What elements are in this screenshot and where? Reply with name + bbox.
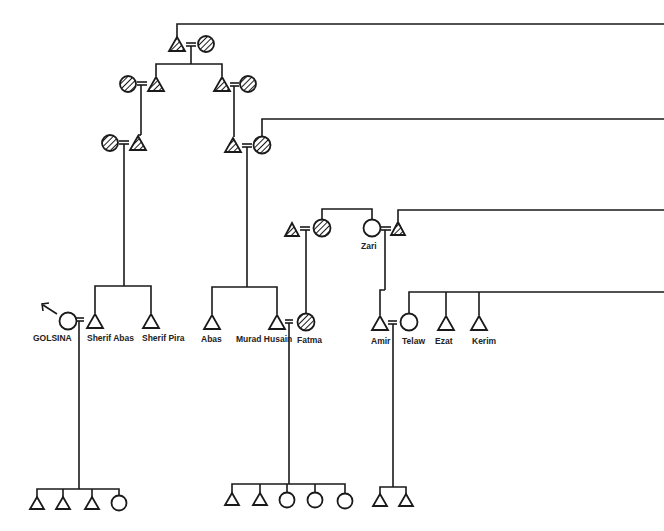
male-icon bbox=[56, 497, 70, 509]
female-deceased-icon bbox=[102, 135, 118, 151]
female-deceased-icon bbox=[198, 36, 214, 52]
connection-lines bbox=[37, 24, 664, 497]
female-icon bbox=[308, 493, 323, 508]
labels: GOLSINA Sherif Abas Sherif Pira Abas Mur… bbox=[33, 241, 497, 346]
male-icon bbox=[30, 497, 44, 509]
label-telaw: Telaw bbox=[402, 336, 425, 346]
label-sherif-abas: Sherif Abas bbox=[87, 333, 134, 343]
male-icon-ezat bbox=[438, 316, 454, 330]
male-deceased-icon bbox=[285, 223, 299, 236]
male-deceased-icon bbox=[130, 136, 146, 150]
gen5 bbox=[30, 493, 413, 511]
female-deceased-icon bbox=[254, 137, 271, 154]
female-icon-golsina bbox=[60, 313, 77, 330]
label-sherif-pira: Sherif Pira bbox=[142, 333, 185, 343]
male-icon bbox=[399, 494, 413, 506]
male-deceased-icon bbox=[391, 222, 405, 235]
female-icon-telaw bbox=[401, 314, 418, 331]
label-kerim: Kerim bbox=[472, 336, 497, 346]
label-fatma: Fatma bbox=[297, 335, 322, 345]
female-deceased-icon-fatma bbox=[298, 314, 315, 331]
label-golsina: GOLSINA bbox=[33, 333, 72, 343]
male-icon-sherif-pira bbox=[143, 314, 159, 328]
female-icon bbox=[338, 494, 353, 509]
kinship-diagram: GOLSINA Sherif Abas Sherif Pira Abas Mur… bbox=[0, 0, 664, 531]
label-amir: Amir bbox=[371, 336, 391, 346]
female-icon-zari bbox=[364, 220, 381, 237]
male-icon bbox=[85, 497, 99, 509]
female-deceased-icon bbox=[120, 76, 136, 92]
male-deceased-icon bbox=[148, 77, 164, 91]
female-deceased-icon bbox=[314, 220, 331, 237]
female-icon bbox=[280, 493, 295, 508]
gen4 bbox=[60, 313, 488, 331]
male-icon-abas bbox=[204, 315, 220, 329]
label-abas: Abas bbox=[201, 334, 222, 344]
male-deceased-icon bbox=[214, 77, 230, 91]
male-icon-kerim bbox=[471, 316, 487, 330]
label-zari: Zari bbox=[361, 241, 377, 251]
gen3 bbox=[102, 135, 405, 237]
male-icon bbox=[225, 493, 239, 505]
female-icon bbox=[112, 496, 127, 511]
label-ezat: Ezat bbox=[435, 336, 453, 346]
male-deceased-icon bbox=[169, 37, 185, 51]
male-icon bbox=[373, 494, 387, 506]
male-icon-sherif-abas bbox=[87, 314, 103, 328]
male-icon bbox=[253, 493, 267, 505]
label-murad-husain: Murad Husain bbox=[236, 334, 292, 344]
male-icon-murad-husain bbox=[269, 315, 285, 329]
male-deceased-icon bbox=[225, 138, 241, 152]
male-icon-amir bbox=[372, 316, 388, 330]
female-deceased-icon bbox=[240, 76, 256, 92]
